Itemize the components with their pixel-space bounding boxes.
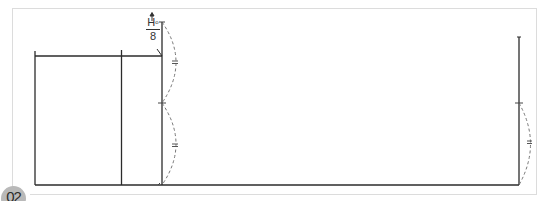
arc-upper-left — [162, 22, 176, 103]
label-leader-line — [157, 49, 162, 56]
draft-lines — [35, 22, 521, 185]
fraction-numerator: Ho — [146, 17, 160, 30]
superscript-text: o — [155, 19, 158, 25]
junction-ticks — [158, 22, 523, 185]
equal-marks — [172, 61, 532, 147]
h-over-8-label: Ho 8 — [146, 17, 160, 42]
fraction-denominator: 8 — [146, 30, 160, 42]
frame — [12, 8, 537, 195]
pattern-drafting-diagram — [0, 0, 546, 201]
dashed-arcs — [162, 22, 531, 185]
